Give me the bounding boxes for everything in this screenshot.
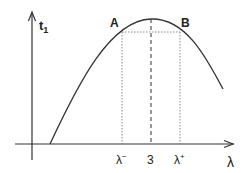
point-a-label: A — [110, 16, 119, 30]
y-axis — [29, 12, 36, 160]
x-axis-label: λ — [227, 154, 234, 170]
diagram-canvas: t1 λ A B λ− 3 λ+ — [0, 0, 248, 173]
point-b-label: B — [181, 16, 190, 30]
y-axis-label: t1 — [39, 18, 48, 35]
tick-3: 3 — [147, 153, 154, 167]
tick-lambda-minus: λ− — [116, 152, 127, 167]
x-axis — [15, 141, 234, 148]
curve — [50, 19, 223, 144]
tick-lambda-plus: λ+ — [174, 152, 185, 167]
